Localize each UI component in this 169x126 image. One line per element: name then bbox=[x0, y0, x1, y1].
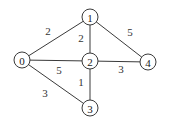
edge-weight-2-3: 1 bbox=[78, 76, 84, 88]
node-2: 2 bbox=[82, 53, 98, 69]
edge-0-2 bbox=[22, 60, 90, 61]
weighted-graph-diagram: 2532513 01234 bbox=[0, 0, 169, 126]
edge-weight-0-1: 2 bbox=[45, 25, 51, 37]
edge-2-4 bbox=[90, 61, 148, 62]
node-label: 2 bbox=[87, 56, 93, 68]
edge-weight-0-3: 3 bbox=[42, 87, 48, 99]
edge-1-4 bbox=[90, 17, 148, 62]
node-4: 4 bbox=[140, 54, 156, 70]
node-0: 0 bbox=[14, 52, 30, 68]
node-1: 1 bbox=[82, 9, 98, 25]
node-label: 4 bbox=[145, 57, 151, 69]
nodes-group: 01234 bbox=[14, 9, 156, 116]
node-label: 3 bbox=[87, 103, 93, 115]
edge-weight-1-2: 2 bbox=[78, 32, 84, 44]
edge-weight-2-4: 3 bbox=[118, 63, 124, 75]
node-3: 3 bbox=[82, 100, 98, 116]
edge-weight-0-2: 5 bbox=[56, 64, 62, 76]
node-label: 0 bbox=[19, 55, 25, 67]
edge-weight-1-4: 5 bbox=[127, 26, 133, 38]
node-label: 1 bbox=[87, 12, 93, 24]
